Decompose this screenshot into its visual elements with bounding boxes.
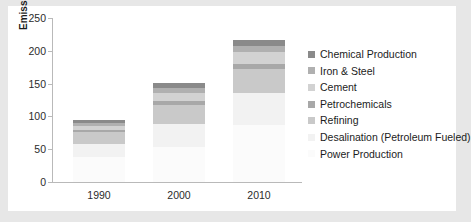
y-tick-label: 100 (28, 111, 46, 122)
chart-legend: Chemical ProductionIron & SteelCementPet… (308, 46, 471, 162)
y-axis-title-container: Emissions (Mt CO2-eq/year) (20, 16, 34, 186)
bar-1990 (73, 120, 125, 182)
legend-item-label: Chemical Production (320, 49, 417, 60)
legend-item[interactable]: Power Production (308, 146, 471, 163)
bar-2010 (233, 40, 285, 182)
y-tick-label: 0 (40, 177, 46, 188)
y-tick-label: 200 (28, 46, 46, 57)
y-tick-label: 250 (28, 13, 46, 24)
legend-swatch-icon (308, 51, 315, 58)
y-tick-mark (48, 182, 52, 183)
chart-screenshot: Emissions (Mt CO2-eq/year) 0501001502002… (0, 0, 471, 222)
y-tick-mark (48, 116, 52, 117)
bar-2000 (153, 83, 205, 182)
legend-item-label: Petrochemicals (320, 99, 392, 110)
legend-item-label: Refining (320, 115, 359, 126)
legend-item[interactable]: Cement (308, 79, 471, 96)
bar-segment (153, 124, 205, 146)
legend-item-label: Desalination (Petroleum Fueled) (320, 132, 471, 143)
legend-item[interactable]: Desalination (Petroleum Fueled) (308, 129, 471, 146)
bar-segment (153, 147, 205, 182)
bar-segment (73, 132, 125, 144)
bar-segment (153, 93, 205, 101)
y-axis-title-pre: Emissions (Mt CO (18, 0, 29, 30)
y-axis-line (52, 18, 53, 182)
legend-item[interactable]: Iron & Steel (308, 63, 471, 80)
legend-swatch-icon (308, 134, 315, 141)
legend-item[interactable]: Petrochemicals (308, 96, 471, 113)
y-tick-label: 150 (28, 78, 46, 89)
legend-swatch-icon (308, 150, 315, 157)
legend-swatch-icon (308, 101, 315, 108)
legend-item-label: Cement (320, 82, 357, 93)
bar-segment (73, 144, 125, 157)
bar-segment (233, 69, 285, 94)
legend-item-label: Iron & Steel (320, 66, 375, 77)
plot-area: 050100150200250 199020002010 (52, 14, 302, 192)
legend-swatch-icon (308, 84, 315, 91)
bar-segment (73, 157, 125, 182)
legend-item-label: Power Production (320, 149, 403, 160)
legend-item[interactable]: Chemical Production (308, 46, 471, 63)
x-axis-label-2010: 2010 (233, 190, 285, 201)
chart-card: Emissions (Mt CO2-eq/year) 0501001502002… (8, 6, 456, 211)
y-tick-mark (48, 149, 52, 150)
bar-segment (233, 125, 285, 182)
legend-item[interactable]: Refining (308, 112, 471, 129)
x-axis-label-2000: 2000 (153, 190, 205, 201)
bar-segment (153, 105, 205, 125)
x-axis-label-1990: 1990 (73, 190, 125, 201)
legend-swatch-icon (308, 117, 315, 124)
y-tick-label: 50 (34, 144, 46, 155)
y-tick-mark (48, 18, 52, 19)
y-tick-mark (48, 51, 52, 52)
x-axis-line (52, 182, 302, 183)
bar-segment (233, 52, 285, 64)
legend-swatch-icon (308, 67, 315, 74)
bar-segment (233, 93, 285, 124)
y-tick-mark (48, 84, 52, 85)
